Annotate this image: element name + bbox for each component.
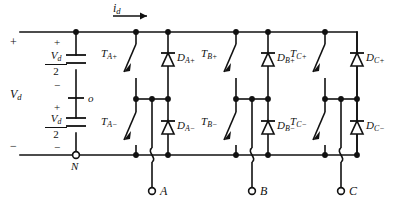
- terminal-A: [149, 188, 156, 195]
- DB-plus-symbol: [261, 53, 275, 66]
- label-DA-minus: DA−: [177, 120, 195, 133]
- bus-plus-sign: +: [10, 36, 17, 48]
- label-DA-plus: DA+: [177, 52, 195, 65]
- vd-label: Vd: [10, 88, 22, 102]
- label-DC-plus: DC+: [366, 52, 385, 65]
- capacitor-bottom: [66, 118, 86, 126]
- cap-top-value: Vd 2: [45, 50, 67, 77]
- cap-bottom-value: Vd 2: [45, 113, 67, 140]
- label-DC-minus: DC−: [366, 120, 385, 133]
- label-TB-plus: TB+: [201, 48, 217, 61]
- capacitor-top: [66, 55, 86, 63]
- terminal-C: [338, 188, 345, 195]
- bus-minus-sign: −: [10, 140, 17, 152]
- leg-B: [224, 32, 268, 189]
- label-terminal-B: B: [260, 185, 267, 197]
- current-label: id: [113, 2, 121, 16]
- label-TC-plus: TC+: [290, 48, 307, 61]
- label-terminal-A: A: [160, 185, 167, 197]
- DB-minus-symbol: [261, 121, 275, 134]
- node-N-terminal: [73, 152, 80, 159]
- label-terminal-C: C: [349, 185, 357, 197]
- DA-plus-symbol: [161, 53, 175, 66]
- terminal-B: [249, 188, 256, 195]
- node-o-label: o: [88, 93, 94, 104]
- node-N-label: N: [71, 161, 78, 172]
- DC-plus-symbol: [350, 53, 364, 66]
- leg-C: [313, 32, 357, 189]
- DC-minus-symbol: [350, 121, 364, 134]
- leg-A: [124, 32, 168, 189]
- label-TA-plus: TA+: [101, 48, 117, 61]
- label-TB-minus: TB−: [201, 116, 217, 129]
- label-TA-minus: TA−: [101, 116, 117, 129]
- label-TC-minus: TC−: [290, 116, 307, 129]
- cap-top-plus: +: [54, 37, 60, 48]
- DA-minus-symbol: [161, 121, 175, 134]
- cap-top-minus: −: [54, 80, 60, 91]
- circuit-diagram: + − Vd + Vd 2 − o + Vd 2 − N id TA+ DA+ …: [0, 0, 399, 208]
- cap-bottom-minus: −: [54, 142, 60, 153]
